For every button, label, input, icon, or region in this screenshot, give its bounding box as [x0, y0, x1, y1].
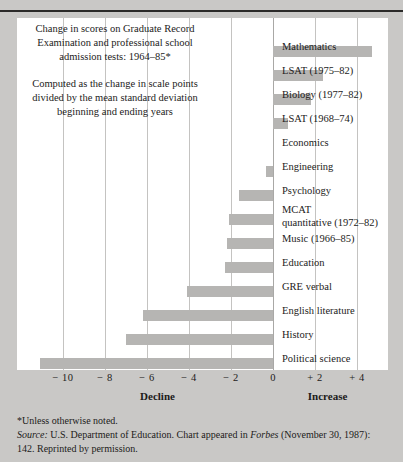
axis-tick-label: − 2	[223, 372, 238, 383]
chart-panel: Change in scores on Graduate Record Exam…	[17, 18, 388, 370]
row-label: English literature	[282, 304, 355, 317]
chart-row: English literature	[17, 304, 388, 328]
chart-caption-line-1: Change in scores on Graduate Record Exam…	[17, 22, 213, 65]
row-label: Economics	[282, 136, 329, 149]
footnote-asterisk: *Unless otherwise noted.	[17, 414, 389, 428]
bar	[225, 262, 273, 273]
chart-axis-titles: Decline Increase	[17, 390, 388, 408]
chart-caption-block: Change in scores on Graduate Record Exam…	[17, 22, 213, 119]
row-label: LSAT (1975–82)	[282, 64, 353, 77]
bar	[227, 238, 273, 249]
bar	[40, 358, 273, 369]
chart-footnotes: *Unless otherwise noted. Source: U.S. De…	[17, 414, 389, 456]
row-label: Political science	[282, 352, 351, 365]
chart-caption-line-2: Computed as the change in scale points d…	[17, 77, 213, 120]
axis-title-increase: Increase	[308, 390, 348, 402]
row-label: History	[282, 328, 314, 341]
row-label: Education	[282, 256, 325, 269]
axis-tick-label: 0	[270, 372, 276, 383]
chart-row: Political science	[17, 352, 388, 370]
footnote-source: Source: U.S. Department of Education. Ch…	[17, 428, 389, 456]
row-label: Biology (1977–82)	[282, 88, 362, 101]
row-label: MCAT quantitative (1972–82)	[282, 203, 378, 229]
footnote-source-publication: Forbes	[250, 429, 278, 440]
chart-row: Music (1966–85)	[17, 232, 388, 256]
chart-row: History	[17, 328, 388, 352]
row-label: Psychology	[282, 184, 331, 197]
footnote-source-label: Source:	[17, 429, 48, 440]
row-label: Mathematics	[282, 40, 336, 53]
chart-x-axis: − 10− 8− 6− 4− 20+ 2+ 4	[17, 372, 388, 392]
chart-row: Education	[17, 256, 388, 280]
row-label: GRE verbal	[282, 280, 332, 293]
axis-tick-label: − 4	[181, 372, 196, 383]
bar	[143, 310, 273, 321]
bar	[229, 214, 273, 225]
chart-row: Engineering	[17, 160, 388, 184]
chart-row: GRE verbal	[17, 280, 388, 304]
bar	[187, 286, 273, 297]
axis-title-decline: Decline	[140, 390, 175, 402]
row-label: Engineering	[282, 160, 333, 173]
chart-row: Economics	[17, 136, 388, 160]
axis-tick-label: + 2	[307, 372, 322, 383]
axis-tick-label: − 8	[97, 372, 112, 383]
chart-row: MCAT quantitative (1972–82)	[17, 208, 388, 232]
axis-tick-label: − 10	[52, 372, 73, 383]
row-label: Music (1966–85)	[282, 232, 355, 245]
bar	[126, 334, 273, 345]
axis-tick-label: + 4	[349, 372, 364, 383]
bar	[239, 190, 273, 201]
axis-tick-label: − 6	[139, 372, 154, 383]
bar	[266, 166, 273, 177]
page-top-rule	[0, 10, 403, 12]
footnote-source-text-1: U.S. Department of Education. Chart appe…	[48, 429, 250, 440]
row-label: LSAT (1968–74)	[282, 112, 353, 125]
